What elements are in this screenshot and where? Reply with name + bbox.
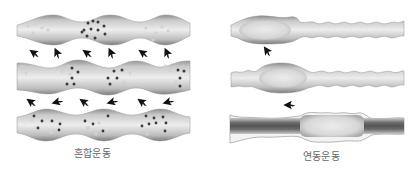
mixing-panel bbox=[17, 15, 190, 141]
peristalsis-tube-2 bbox=[231, 63, 404, 93]
peristalsis-tube-1 bbox=[231, 16, 404, 44]
mixing-arrow-row-2 bbox=[26, 96, 174, 108]
food-bolus bbox=[259, 68, 307, 88]
food-bolus bbox=[300, 115, 364, 137]
digestion-movement-diagram bbox=[0, 0, 420, 171]
peristalsis-panel bbox=[230, 16, 404, 143]
mixing-tube-3 bbox=[17, 109, 190, 141]
mixing-arrow-row-1 bbox=[29, 48, 173, 60]
peristalsis-tube-3 bbox=[230, 112, 404, 143]
mixing-movement-label: 혼합운동 bbox=[74, 145, 111, 160]
peristalsis-arrow-1 bbox=[262, 46, 272, 56]
mixing-tube-1 bbox=[17, 15, 190, 45]
peristalsis-label: 연동운동 bbox=[303, 148, 340, 163]
peristalsis-arrow-2 bbox=[283, 99, 296, 112]
food-bolus bbox=[239, 20, 291, 40]
mixing-tube-2 bbox=[17, 60, 190, 95]
